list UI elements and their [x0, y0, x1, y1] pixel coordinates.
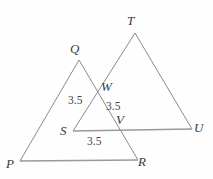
vertex-label-Q: Q — [70, 42, 79, 55]
vertex-label-R: R — [138, 155, 146, 168]
vertex-label-W: W — [101, 80, 112, 93]
vertex-label-T: T — [127, 14, 134, 27]
segment-TU — [135, 33, 192, 129]
vertex-label-S: S — [60, 124, 67, 137]
measure-label-SW: 3.5 — [68, 95, 82, 107]
vertex-label-U: U — [194, 121, 203, 134]
segment-PR — [20, 160, 138, 161]
geometry-diagram: P Q R S T U V W 3.5 3.5 3.5 — [0, 0, 213, 179]
vertex-label-P: P — [6, 157, 14, 170]
vertex-label-V: V — [116, 113, 124, 126]
measure-label-SV: 3.5 — [87, 136, 101, 148]
segment-SU — [73, 129, 192, 131]
measure-label-WV: 3.5 — [106, 101, 120, 113]
segment-PQ — [20, 60, 79, 161]
